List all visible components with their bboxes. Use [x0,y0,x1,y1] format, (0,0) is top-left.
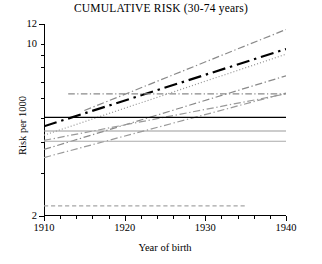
y-tick-label-12: 12 [27,19,38,30]
series-canvas [44,24,286,216]
x-tick-1932 [221,216,222,219]
y-tick-label-10: 10 [27,38,38,49]
series-projection-dotted [44,54,286,135]
chart-title: CUMULATIVE RISK (30-74 years) [0,2,322,14]
series-observed-trend-main [44,49,286,126]
x-tick-1928 [189,216,190,219]
series-projection-steepest [84,29,286,110]
x-tick-1910 [44,216,45,221]
y-axis-label: Risk per 1000 [17,56,28,196]
series-projection-mid-lower [44,93,286,158]
x-tick-label-1910: 1910 [34,223,55,234]
data-series-layer [44,24,286,216]
x-tick-1920 [125,216,126,221]
x-tick-label-1920: 1920 [114,223,135,234]
x-tick-1936 [254,216,255,219]
x-tick-1938 [270,216,271,219]
y-tick-label-2: 2 [32,211,37,222]
plot-area: 12102 1910192019301940 [44,24,286,216]
x-tick-1914 [76,216,77,219]
x-tick-1926 [173,216,174,219]
x-tick-1918 [109,216,110,219]
y-axis-label-container: Risk per 1000 [2,24,18,216]
x-tick-label-1930: 1930 [195,223,216,234]
x-tick-1912 [60,216,61,219]
x-tick-1924 [157,216,158,219]
x-tick-1934 [238,216,239,219]
x-tick-label-1940: 1940 [276,223,297,234]
x-tick-1930 [205,216,206,221]
chart-figure: CUMULATIVE RISK (30-74 years) Risk per 1… [0,0,322,264]
x-axis-label: Year of birth [44,242,286,253]
x-tick-1940 [286,216,287,221]
x-tick-1922 [141,216,142,219]
x-tick-1916 [92,216,93,219]
